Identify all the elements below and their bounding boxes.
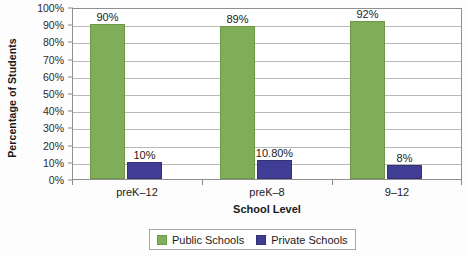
bar-value-label: 92% [356,8,378,20]
y-axis-tick-labels: 0%10%20%30%40%50%60%70%80%90%100% [22,8,68,180]
bar-public[interactable] [220,26,255,179]
y-axis-tick-label: 60% [43,71,64,83]
y-axis-tick-label: 90% [43,19,64,31]
legend-swatch-public-icon [157,235,167,245]
y-axis-tick-label: 70% [43,54,64,66]
x-axis-title: School Level [72,203,462,215]
y-axis-tick-label: 20% [43,140,64,152]
bars-layer: 90%10%89%10.80%92%8% [73,9,461,179]
chart-legend: Public Schools Private Schools [149,229,356,250]
y-axis-tick-label: 40% [43,105,64,117]
x-axis-tick-labels: preK–12preK–89–12 [72,186,462,202]
bar-value-label: 10.80% [256,147,293,159]
bar-private[interactable] [127,162,162,179]
bar-private[interactable] [257,160,292,179]
x-axis-tick-mark [461,180,462,185]
bar-value-label: 89% [226,13,248,25]
y-axis-tick-label: 0% [49,174,64,186]
bar-public[interactable] [90,24,125,179]
x-axis-tick-label: 9–12 [385,186,409,198]
x-axis-tick-mark [202,180,203,185]
y-axis-tick-label: 100% [37,2,64,14]
y-axis-tick-label: 50% [43,88,64,100]
bar-private[interactable] [387,165,422,179]
y-axis-tick-label: 30% [43,122,64,134]
x-axis-tick-mark [72,180,73,185]
x-axis-tick-mark [332,180,333,185]
y-axis-title: Percentage of Students [0,0,24,196]
plot-area: 90%10%89%10.80%92%8% [72,8,462,180]
bar-chart-figure: Percentage of Students 0%10%20%30%40%50%… [0,0,467,256]
bar-value-label: 10% [133,149,155,161]
legend-item-public[interactable]: Public Schools [157,234,244,246]
bar-value-label: 90% [96,11,118,23]
legend-label-private: Private Schools [271,234,347,246]
bar-public[interactable] [350,21,385,179]
y-axis-tick-label: 80% [43,36,64,48]
bar-value-label: 8% [397,152,413,164]
legend-label-public: Public Schools [172,234,244,246]
y-axis-title-text: Percentage of Students [6,38,18,157]
x-axis-tick-label: preK–8 [249,186,284,198]
y-axis-tick-label: 10% [43,157,64,169]
legend-swatch-private-icon [256,235,266,245]
x-axis-tick-label: preK–12 [116,186,158,198]
legend-item-private[interactable]: Private Schools [256,234,347,246]
